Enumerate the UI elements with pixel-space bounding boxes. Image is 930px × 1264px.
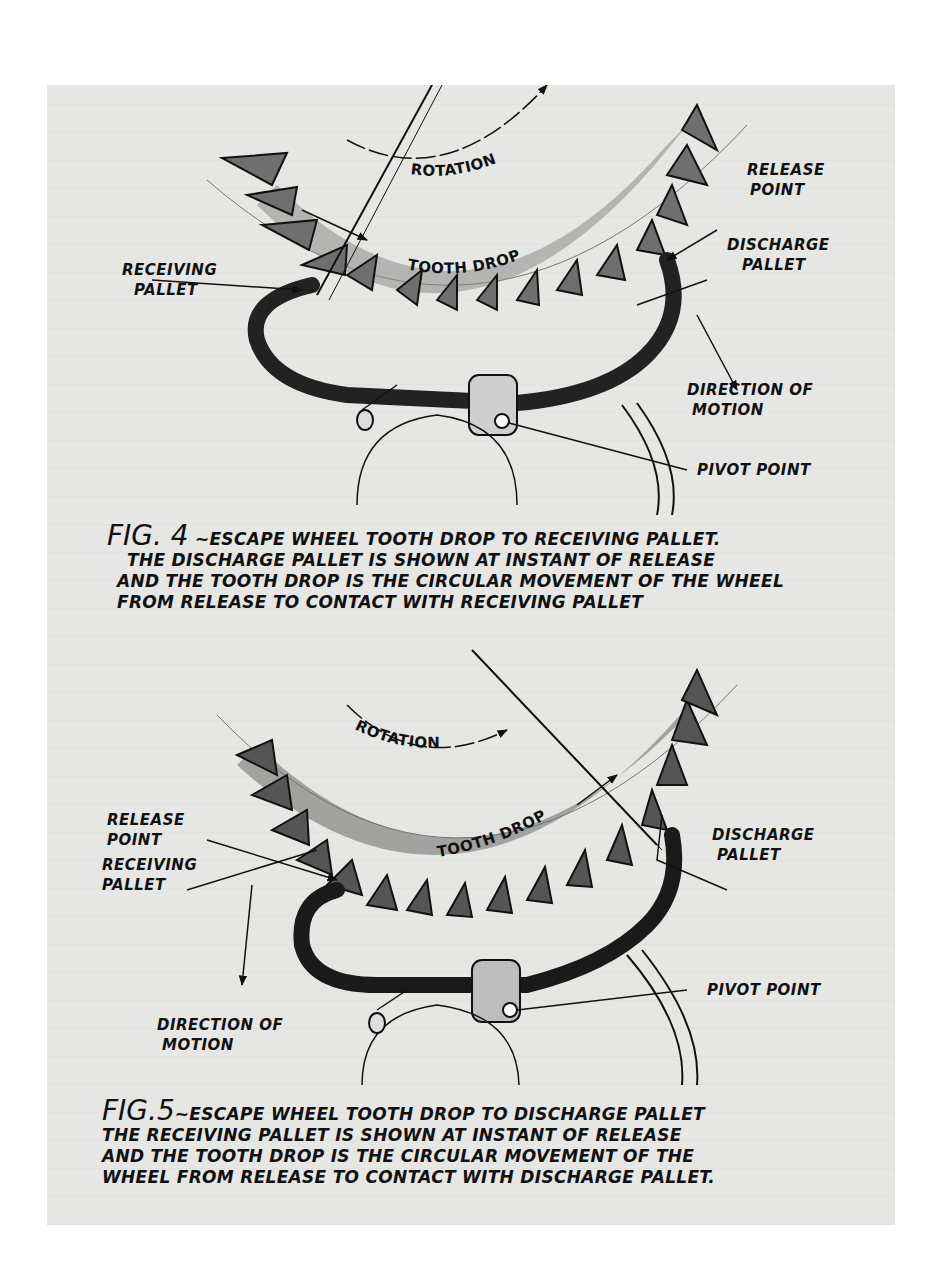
label-line: PALLET (742, 256, 806, 274)
figure-4: ROTATION TOOTH DROP (47, 85, 895, 515)
fig4-discharge-pallet-label: DISCHARGE PALLET (727, 235, 830, 275)
fig5-tooth-drop-label: TOOTH DROP (436, 806, 550, 861)
fig4-rotation-label: ROTATION (410, 150, 499, 180)
caption-line: AND THE TOOTH DROP IS THE CIRCULAR MOVEM… (102, 1146, 715, 1167)
label-line: DIRECTION OF (157, 1016, 283, 1034)
label-line: RECEIVING (102, 856, 197, 874)
svg-text:ROTATION: ROTATION (410, 150, 499, 180)
label-line: RELEASE (747, 161, 825, 179)
fig5-rotation-label: ROTATION (353, 716, 441, 751)
caption-line: FROM RELEASE TO CONTACT WITH RECEIVING P… (117, 592, 784, 613)
fig4-receiving-pallet-label: RECEIVING PALLET (122, 260, 217, 300)
fig4-caption: FIG. 4 ~ESCAPE WHEEL TOOTH DROP TO RECEI… (107, 525, 784, 613)
label-line: PALLET (717, 846, 781, 864)
label-line: DISCHARGE (727, 236, 830, 254)
fig4-release-point-label: RELEASE POINT (747, 160, 825, 200)
caption-line: THE DISCHARGE PALLET IS SHOWN AT INSTANT… (127, 550, 784, 571)
caption-line: THE RECEIVING PALLET IS SHOWN AT INSTANT… (102, 1125, 715, 1146)
caption-line: WHEEL FROM RELEASE TO CONTACT WITH DISCH… (102, 1167, 715, 1188)
fig5-number: FIG.5 (102, 1094, 175, 1127)
caption-line: AND THE TOOTH DROP IS THE CIRCULAR MOVEM… (117, 571, 784, 592)
label-line: POINT (107, 831, 162, 849)
label-line: RECEIVING (122, 261, 217, 279)
figure-4-drawing: ROTATION TOOTH DROP (47, 85, 895, 515)
fig4-number: FIG. 4 (107, 519, 189, 552)
caption-line: ~ESCAPE WHEEL TOOTH DROP TO DISCHARGE PA… (175, 1104, 705, 1124)
svg-text:ROTATION: ROTATION (353, 716, 441, 751)
fig5-discharge-pallet-label: DISCHARGE PALLET (712, 825, 815, 865)
label-line: MOTION (162, 1036, 234, 1054)
label-line: PALLET (102, 876, 166, 894)
label-line: PALLET (134, 281, 198, 299)
fig5-direction-of-motion-label: DIRECTION OF MOTION (157, 1015, 283, 1055)
fig5-caption: FIG.5~ESCAPE WHEEL TOOTH DROP TO DISCHAR… (102, 1100, 715, 1188)
fig5-receiving-pallet-label: RECEIVING PALLET (102, 855, 197, 895)
label-line: MOTION (692, 401, 764, 419)
fig5-release-point-label: RELEASE POINT (107, 810, 185, 850)
fig4-pivot-point-label: PIVOT POINT (697, 460, 811, 480)
label-line: DISCHARGE (712, 826, 815, 844)
label-line: RELEASE (107, 811, 185, 829)
drawing-sheet: ROTATION TOOTH DROP (47, 85, 895, 1225)
figure-5: ROTATION TOOTH DROP RELEASE POINT (47, 645, 895, 1085)
svg-text:TOOTH DROP: TOOTH DROP (436, 806, 550, 861)
label-line: DIRECTION OF (687, 381, 813, 399)
fig5-pivot-point-label: PIVOT POINT (707, 980, 821, 1000)
fig4-direction-of-motion-label: DIRECTION OF MOTION (687, 380, 813, 420)
label-line: POINT (750, 181, 805, 199)
caption-line: ~ESCAPE WHEEL TOOTH DROP TO RECEIVING PA… (195, 529, 721, 549)
